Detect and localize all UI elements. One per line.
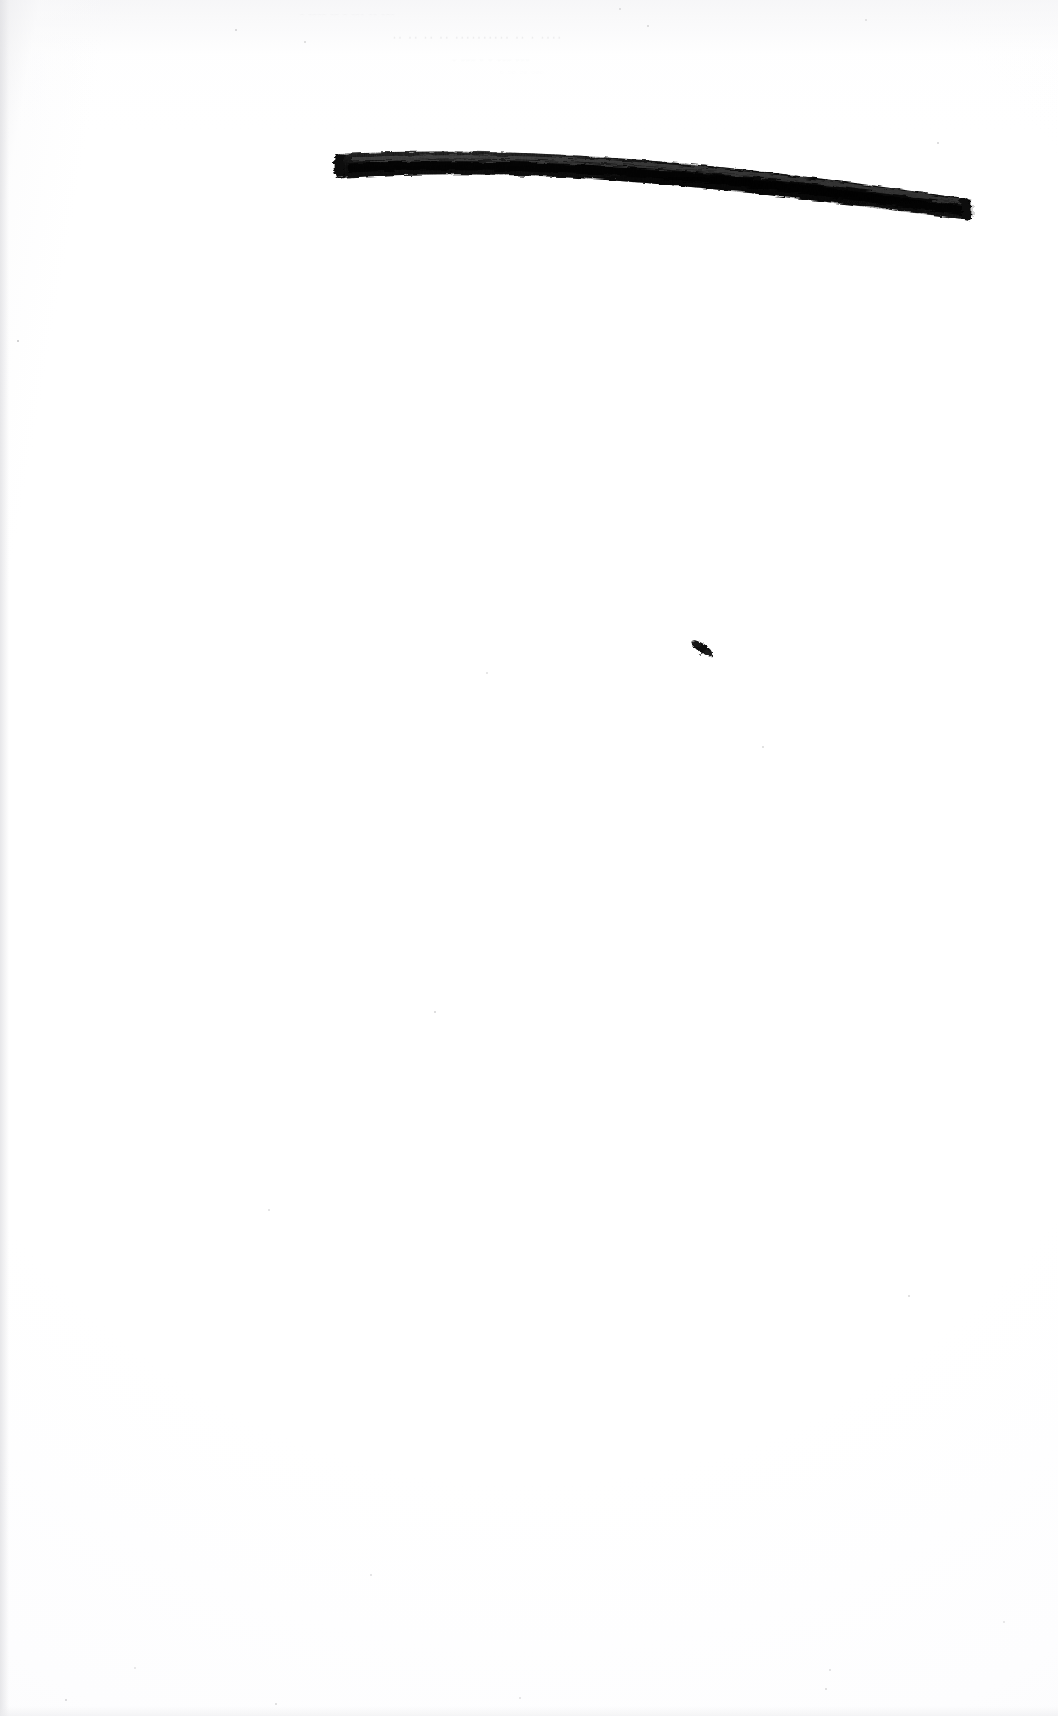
page-left-edge-shadow	[0, 0, 9, 1716]
ghost-text-lower: · ··· · · ··· ···	[451, 54, 531, 67]
scanned-page: · ···· ·· · ··· ·· ··· ·· ·· ·· ·· ·····…	[0, 0, 1058, 1716]
scan-speck	[519, 1697, 521, 1699]
scan-speck	[434, 1011, 436, 1013]
scan-speck	[17, 340, 20, 343]
scan-speck	[762, 746, 764, 748]
ghost-text-trailing: · ·· ·· ···	[500, 68, 544, 77]
scan-speck	[486, 672, 488, 674]
scan-speck	[235, 29, 237, 31]
ghost-text-main-line: ·· ·· ·· ·· ·········· ·· · ····	[392, 31, 563, 45]
scan-speck	[275, 1703, 277, 1705]
page-bottom-edge-shadow	[0, 1706, 1058, 1716]
scan-speck	[937, 142, 939, 144]
scan-speck	[908, 1295, 910, 1297]
scan-speck	[619, 8, 621, 10]
ink-blot	[682, 632, 722, 664]
scan-speck	[304, 41, 306, 43]
scan-speck	[268, 1209, 270, 1211]
redaction-bar	[330, 138, 980, 224]
scan-speck	[1003, 1621, 1005, 1623]
scan-speck	[370, 1574, 372, 1576]
paper-tone-overlay	[0, 0, 1058, 1716]
scan-speck	[647, 25, 649, 27]
scan-speck	[865, 19, 867, 21]
scan-speck	[829, 1669, 831, 1671]
scan-speck	[65, 1699, 67, 1701]
ghost-text-upper: · ···· ·· · ··· ·· ···	[300, 10, 395, 22]
scan-speck	[134, 1667, 136, 1669]
scan-speck	[825, 1688, 827, 1690]
